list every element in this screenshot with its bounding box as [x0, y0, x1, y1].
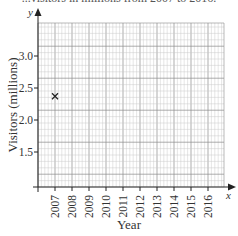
x-tick-label: 2011: [117, 195, 129, 218]
x-tick-label: 2007: [49, 195, 61, 218]
x-axis-variable: x: [225, 189, 231, 201]
x-axis-label: Year: [117, 217, 142, 232]
grid: [38, 23, 224, 187]
y-tick-label: 3.0: [19, 50, 34, 62]
y-tick-label: 1.5: [19, 146, 34, 158]
y-ticks: 1.52.02.53.0: [19, 50, 38, 158]
x-tick-label: 2014: [168, 195, 180, 218]
x-ticks: 2007200820092010201120122013201420152016: [49, 187, 214, 218]
x-tick-label: 2015: [185, 195, 197, 218]
x-tick-label: 2012: [134, 195, 146, 218]
x-tick-label: 2009: [83, 195, 95, 218]
chart-area: x y 1.52.02.53.0 20072008200920102011201…: [0, 0, 238, 236]
x-tick-label: 2010: [100, 195, 112, 218]
y-axis-arrow-icon: [35, 8, 42, 16]
x-tick-label: 2013: [151, 195, 163, 218]
y-tick-label: 2.0: [19, 114, 34, 126]
y-axis-variable: y: [27, 6, 33, 18]
x-tick-label: 2016: [202, 195, 214, 218]
y-tick-label: 2.5: [19, 82, 34, 94]
y-axis-label: Visitors (millions): [5, 58, 20, 153]
x-tick-label: 2008: [66, 195, 78, 218]
